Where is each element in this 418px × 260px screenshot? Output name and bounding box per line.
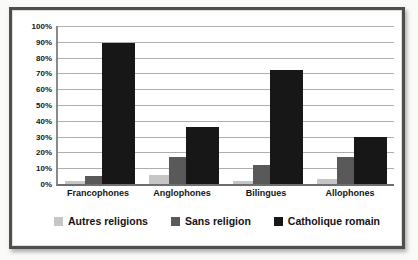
bar-groups: [58, 26, 394, 184]
y-axis-tick-label: 50%: [18, 101, 52, 110]
category-label: Anglophones: [140, 188, 224, 198]
legend-swatch-icon: [171, 217, 180, 226]
legend-item: Sans religion: [171, 215, 251, 227]
y-axis-tick-label: 100%: [18, 22, 52, 31]
bar-catholique-romain: [354, 137, 387, 184]
bar-group-allophones: [310, 26, 394, 184]
category-axis: FrancophonesAnglophonesBilinguesAllophon…: [56, 188, 392, 198]
legend-swatch-icon: [274, 217, 283, 226]
bar-autres-religions: [65, 181, 85, 184]
bar-sans-religion: [253, 165, 270, 184]
legend-label: Autres religions: [68, 215, 148, 227]
bar-autres-religions: [149, 175, 169, 184]
category-label: Bilingues: [224, 188, 308, 198]
bar-catholique-romain: [102, 43, 135, 184]
y-axis-tick-label: 10%: [18, 164, 52, 173]
chart-frame: 100%90%80%70%60%50%40%30%20%10%0% Franco…: [9, 7, 405, 249]
bar-group-anglophones: [142, 26, 226, 184]
bar-sans-religion: [337, 157, 354, 184]
legend: Autres religionsSans religionCatholique …: [54, 215, 380, 227]
bar-catholique-romain: [270, 70, 303, 184]
y-axis-tick-label: 40%: [18, 116, 52, 125]
y-axis-tick-label: 90%: [18, 37, 52, 46]
bar-autres-religions: [317, 179, 337, 184]
legend-label: Sans religion: [185, 215, 251, 227]
bar-group-francophones: [58, 26, 142, 184]
y-axis-tick-label: 70%: [18, 69, 52, 78]
category-label: Francophones: [56, 188, 140, 198]
plot-area: 100%90%80%70%60%50%40%30%20%10%0%: [56, 26, 394, 186]
bar-sans-religion: [169, 157, 186, 184]
y-axis-tick-label: 60%: [18, 85, 52, 94]
legend-swatch-icon: [54, 217, 63, 226]
legend-item: Catholique romain: [274, 215, 380, 227]
y-axis-tick-label: 30%: [18, 132, 52, 141]
legend-item: Autres religions: [54, 215, 148, 227]
bar-catholique-romain: [186, 127, 219, 184]
y-axis-tick-label: 20%: [18, 148, 52, 157]
bar-sans-religion: [85, 176, 102, 184]
bar-autres-religions: [233, 181, 253, 184]
y-axis-tick-label: 0%: [18, 180, 52, 189]
category-label: Allophones: [308, 188, 392, 198]
legend-label: Catholique romain: [288, 215, 380, 227]
bar-group-bilingues: [226, 26, 310, 184]
y-axis-tick-label: 80%: [18, 53, 52, 62]
